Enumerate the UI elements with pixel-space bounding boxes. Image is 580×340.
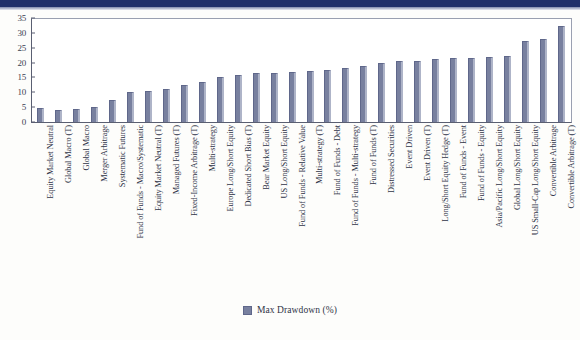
bar bbox=[414, 61, 421, 123]
bar bbox=[163, 89, 170, 122]
y-axis: 05101520253035 bbox=[0, 18, 31, 123]
bar bbox=[37, 108, 44, 122]
category-label: Managed Futures (T) bbox=[172, 56, 180, 125]
category-label: Fund of Funds - Debt bbox=[334, 55, 342, 125]
y-axis-tick-label: 25 bbox=[17, 43, 26, 52]
y-axis-tick-mark bbox=[31, 32, 35, 33]
y-axis-tick-label: 30 bbox=[17, 28, 26, 37]
category-label-slot: Global Long/Short Equity bbox=[499, 125, 519, 295]
category-label-slot: Long/Short Equity Hedge (T) bbox=[427, 125, 447, 295]
x-axis-category-labels: Equity Market NeutralGlobal Macro (T)Glo… bbox=[32, 125, 571, 295]
category-label-slot: Fund of Funds - Debt bbox=[319, 125, 339, 295]
category-label: Dedicated Short Bias (T) bbox=[244, 43, 252, 125]
category-label: Fund of Funds - Relative Value bbox=[298, 23, 306, 125]
bar bbox=[342, 68, 349, 122]
category-label: US Long/Short Equity bbox=[280, 52, 288, 125]
category-label: Multi-strategy bbox=[208, 78, 216, 125]
bar bbox=[145, 91, 152, 122]
category-label-slot: Fund of Funds - Equity bbox=[463, 125, 483, 295]
bar bbox=[217, 77, 224, 122]
category-label-slot: Fund of Funds - Macro/Systematic bbox=[122, 125, 142, 295]
category-label: Asia/Pacific Long/Short Equity bbox=[496, 22, 504, 125]
category-label-slot: Convertible Arbitrage bbox=[535, 125, 555, 295]
bar bbox=[504, 56, 511, 122]
category-label: Merger Arbitrage bbox=[100, 68, 108, 125]
y-axis-tick-label: 5 bbox=[22, 103, 26, 112]
category-label: Fund of Funds - Multi-strategy bbox=[352, 24, 360, 125]
chart-figure: 05101520253035 Equity Market NeutralGlob… bbox=[0, 0, 580, 340]
bar bbox=[450, 58, 457, 122]
category-label: Distressed Securities bbox=[388, 57, 396, 125]
category-label-slot: Fixed-Income Arbitrage (T) bbox=[176, 125, 196, 295]
category-label-slot: Europe Long/Short Equity bbox=[212, 125, 232, 295]
bar bbox=[360, 66, 367, 122]
y-axis-tick-label: 0 bbox=[22, 118, 26, 127]
bar bbox=[396, 61, 403, 122]
category-label-slot: Systematic Futures bbox=[104, 125, 124, 295]
category-label-slot: Global Macro (T) bbox=[50, 125, 70, 295]
category-label-slot: Global Macro bbox=[68, 125, 88, 295]
category-label: Global Macro bbox=[82, 79, 90, 125]
category-label: Europe Long/Short Equity bbox=[226, 39, 234, 125]
category-label-slot: Fund of Funds - Relative Value bbox=[284, 125, 304, 295]
category-label-slot: Merger Arbitrage bbox=[86, 125, 106, 295]
category-label-slot: Fund of Funds - Event bbox=[445, 125, 465, 295]
y-axis-tick-mark bbox=[31, 107, 35, 108]
category-label: Global Macro (T) bbox=[64, 67, 72, 125]
category-label-slot: Event Driven (T) bbox=[409, 125, 429, 295]
category-label: US Small-Cap Long/Short Equity bbox=[532, 15, 540, 125]
y-axis-tick-mark bbox=[31, 77, 35, 78]
legend-color-swatch bbox=[243, 306, 252, 315]
bar bbox=[540, 39, 547, 122]
category-label-slot: Convertible Arbitrage (T) bbox=[553, 125, 573, 295]
category-label: Event Driven bbox=[406, 81, 414, 125]
category-label: Fund of Funds (T) bbox=[370, 65, 378, 125]
bar bbox=[55, 110, 62, 122]
bar bbox=[271, 73, 278, 122]
bar bbox=[253, 73, 260, 122]
category-label: Equity Market Neutral (T) bbox=[154, 39, 162, 125]
category-label: Fund of Funds - Event bbox=[460, 52, 468, 125]
bar bbox=[468, 58, 475, 122]
bar bbox=[109, 100, 116, 122]
category-label-slot: Equity Market Neutral bbox=[32, 125, 52, 295]
category-label-slot: Event Driven bbox=[391, 125, 411, 295]
category-label-slot: Asia/Pacific Long/Short Equity bbox=[481, 125, 501, 295]
category-label-slot: Multi-strategy bbox=[194, 125, 214, 295]
bar bbox=[522, 41, 529, 122]
legend-label: Max Drawdown (%) bbox=[257, 305, 337, 315]
category-label: Convertible Arbitrage (T) bbox=[568, 41, 576, 125]
category-label-slot: US Long/Short Equity bbox=[266, 125, 286, 295]
y-axis-tick-label: 10 bbox=[17, 88, 26, 97]
y-axis-tick-mark bbox=[31, 47, 35, 48]
category-label-slot: Managed Futures (T) bbox=[158, 125, 178, 295]
y-axis-tick-mark bbox=[31, 62, 35, 63]
scan-artifact-band bbox=[0, 0, 580, 7]
category-label: Fund of Funds - Equity bbox=[478, 49, 486, 125]
bar bbox=[432, 59, 439, 122]
category-label: Equity Market Neutral bbox=[46, 51, 54, 125]
y-axis-tick-mark bbox=[31, 18, 35, 19]
bar bbox=[486, 57, 493, 122]
category-label-slot: Distressed Securities bbox=[373, 125, 393, 295]
bar bbox=[235, 75, 242, 122]
category-label: Convertible Arbitrage bbox=[550, 54, 558, 125]
category-label: Bear Market Equity bbox=[262, 60, 270, 125]
bar bbox=[307, 71, 314, 122]
bar bbox=[289, 72, 296, 122]
bar bbox=[324, 70, 331, 122]
category-label-slot: Multi-strategy (T) bbox=[302, 125, 322, 295]
bar bbox=[199, 82, 206, 122]
bar bbox=[73, 109, 80, 122]
category-label: Long/Short Equity Hedge (T) bbox=[442, 28, 450, 125]
category-label-slot: US Small-Cap Long/Short Equity bbox=[517, 125, 537, 295]
chart-legend: Max Drawdown (%) bbox=[0, 305, 580, 315]
y-axis-tick-label: 20 bbox=[17, 58, 26, 67]
category-label: Systematic Futures bbox=[118, 63, 126, 125]
bar bbox=[378, 63, 385, 122]
category-label-slot: Fund of Funds (T) bbox=[355, 125, 375, 295]
category-label-slot: Dedicated Short Bias (T) bbox=[230, 125, 250, 295]
category-label-text: Convertible Arbitrage (T) bbox=[568, 125, 576, 209]
category-label-slot: Fund of Funds - Multi-strategy bbox=[337, 125, 357, 295]
category-label: Multi-strategy (T) bbox=[316, 66, 324, 125]
